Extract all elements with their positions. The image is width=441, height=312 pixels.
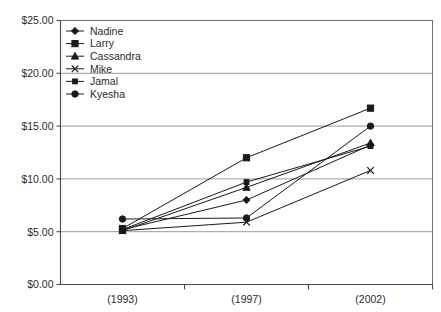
x-axis-category-label: (2002) <box>355 293 385 305</box>
legend-label: Larry <box>90 37 115 49</box>
plot-background <box>0 0 441 312</box>
legend-label: Nadine <box>90 25 123 37</box>
legend-marker-small-square-icon <box>73 79 78 84</box>
legend-label: Kyesha <box>90 88 125 100</box>
data-point-marker <box>119 216 125 222</box>
data-point-marker <box>243 155 249 161</box>
data-point-marker <box>367 123 373 129</box>
y-axis-tick-label: $15.00 <box>21 120 53 132</box>
chart-canvas: $0.00$5.00$10.00$15.00$20.00$25.00 (1993… <box>0 0 441 312</box>
data-point-marker <box>243 215 249 221</box>
data-point-marker <box>120 227 125 232</box>
y-axis-tick-label: $10.00 <box>21 173 53 185</box>
y-axis-tick-label: $25.00 <box>21 14 53 26</box>
y-axis-tick-label: $5.00 <box>27 226 53 238</box>
legend-marker-circle-icon <box>72 91 78 97</box>
data-point-marker <box>244 180 249 185</box>
x-axis-category-label: (1993) <box>107 293 137 305</box>
y-axis-tick-label: $20.00 <box>21 67 53 79</box>
x-axis-category-label: (1997) <box>231 293 261 305</box>
data-point-marker <box>368 144 373 149</box>
line-chart: $0.00$5.00$10.00$15.00$20.00$25.00 (1993… <box>0 0 441 312</box>
legend-marker-square-icon <box>72 41 78 47</box>
data-point-marker <box>367 105 373 111</box>
legend-label: Jamal <box>90 75 118 87</box>
y-axis-tick-label: $0.00 <box>27 278 53 290</box>
legend-label: Mike <box>90 63 112 75</box>
legend-label: Cassandra <box>90 50 141 62</box>
